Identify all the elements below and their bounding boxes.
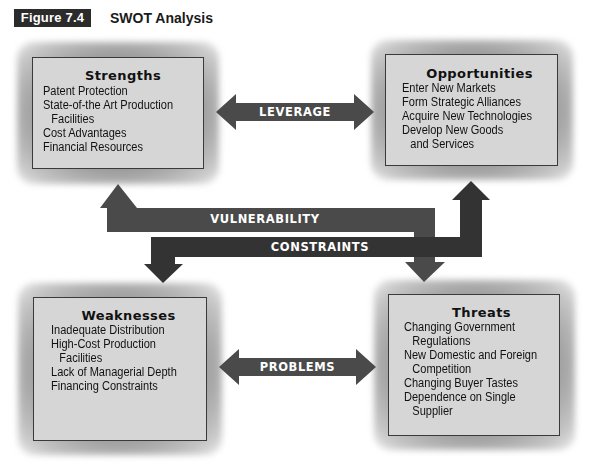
leverage-label: LEVERAGE — [236, 105, 354, 119]
constraints-label: CONSTRAINTS — [260, 240, 380, 254]
problems-label: PROBLEMS — [239, 360, 356, 374]
vulnerability-label: VULNERABILITY — [205, 212, 325, 226]
arrows-layer — [0, 0, 590, 472]
